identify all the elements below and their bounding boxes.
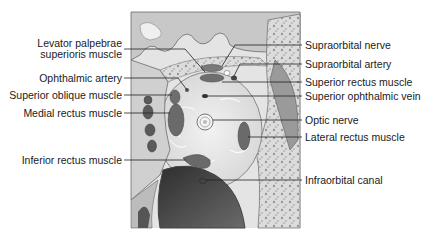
label-inferior-rectus: Inferior rectus muscle xyxy=(22,155,122,166)
label-superior-rectus: Superior rectus muscle xyxy=(305,77,412,88)
label-lateral-rectus: Lateral rectus muscle xyxy=(305,132,405,143)
label-superior-ophthalmic-vein: Superior ophthalmic vein xyxy=(305,91,421,102)
label-ophthalmic-artery: Ophthalmic artery xyxy=(39,73,122,84)
infraorbital-canal-shape xyxy=(200,179,207,184)
supraorbital-nerve-shape xyxy=(224,71,230,76)
levator-muscle-shape xyxy=(201,65,223,72)
label-supraorbital-nerve: Supraorbital nerve xyxy=(305,40,391,51)
label-levator: Levator palpebrae superioris muscle xyxy=(37,38,122,60)
label-infraorbital-canal: Infraorbital canal xyxy=(305,175,383,186)
lateral-rectus-shape xyxy=(238,122,250,150)
label-optic-nerve: Optic nerve xyxy=(305,115,359,126)
superior-ophthalmic-vein-shape xyxy=(202,94,208,98)
label-superior-oblique: Superior oblique muscle xyxy=(9,90,122,101)
label-supraorbital-artery: Supraorbital artery xyxy=(305,59,391,70)
superior-rectus-shape xyxy=(200,74,224,82)
superior-oblique-shape xyxy=(170,90,180,104)
orbit-diagram: Levator palpebrae superioris muscle Opht… xyxy=(0,0,431,240)
label-levator-line2: superioris muscle xyxy=(37,49,122,60)
label-medial-rectus: Medial rectus muscle xyxy=(23,108,122,119)
orbit-illustration xyxy=(0,0,431,240)
supraorbital-artery-shape xyxy=(231,76,237,81)
medial-rectus-shape xyxy=(168,104,184,136)
optic-nerve-core xyxy=(203,120,207,124)
